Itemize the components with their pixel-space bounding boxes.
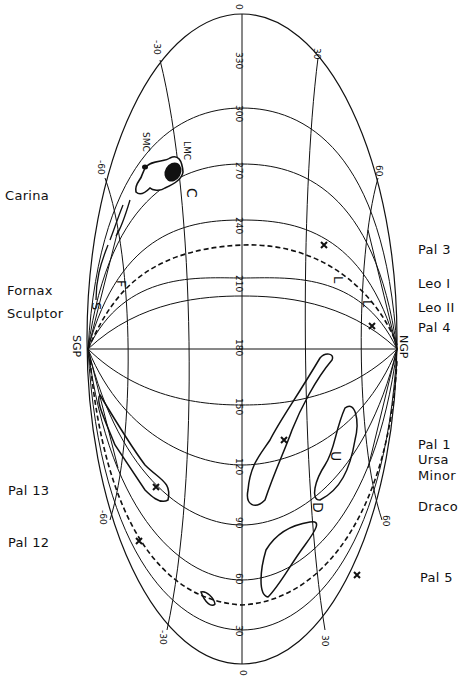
latitude-label-neg60-top: -60	[96, 160, 106, 175]
latitude-label-60-top: 60	[374, 165, 384, 177]
meridian-label-60: 60	[234, 573, 244, 585]
latitude-label-neg30-bottom: -30	[158, 630, 168, 645]
marker-pal4	[369, 323, 375, 329]
label-carina: Carina	[5, 188, 49, 203]
latitude-label-30-bottom: 30	[320, 635, 330, 647]
meridian-label-300: 300	[234, 105, 244, 122]
object-letter-leo1: L	[331, 276, 346, 284]
latitude-label-neg60-bottom: -60	[98, 510, 108, 525]
object-letter-ursa-minor: U	[328, 451, 344, 461]
stream-contour-5	[201, 592, 215, 606]
smc-label: SMC	[141, 132, 151, 152]
label-fornax: Fornax	[7, 283, 53, 298]
marker-pal5	[354, 572, 360, 578]
object-letter-sculptor: S	[89, 302, 104, 310]
label-leo2: Leo II	[418, 300, 455, 315]
label-sculptor: Sculptor	[7, 306, 63, 321]
meridian-label-150: 150	[234, 398, 244, 415]
latitude-label-30-top: 30	[312, 48, 322, 60]
label-leo1: Leo I	[418, 276, 450, 291]
label-ursa: Ursa	[418, 452, 449, 467]
meridian-label-270: 270	[234, 162, 244, 179]
latitude-curve-pos30	[305, 58, 325, 630]
label-draco: Draco	[418, 499, 458, 514]
meridian-label-240: 240	[234, 217, 244, 234]
label-pal3: Pal 3	[418, 242, 451, 257]
meridian-label-90: 90	[234, 517, 244, 529]
meridian-label-180: 180	[234, 339, 244, 356]
meridian-label-0-top: 0	[234, 4, 244, 10]
latitude-label-60-bottom: 60	[381, 515, 391, 527]
aitoff-sky-map: 0 330 300 270 240 210 180 150 120 90 60 …	[0, 0, 459, 686]
magellanic-clouds	[96, 157, 185, 300]
label-pal13: Pal 13	[8, 483, 49, 498]
label-pal1: Pal 1	[418, 437, 451, 452]
latitude-label-neg30-top: -30	[152, 40, 162, 55]
stream-contour-1	[247, 354, 332, 505]
meridian-label-120: 120	[234, 458, 244, 475]
pole-label-sgp: SGP	[70, 335, 83, 358]
label-pal5: Pal 5	[420, 570, 453, 585]
pole-ray-sgp-2	[88, 349, 118, 468]
label-pal12: Pal 12	[8, 535, 49, 550]
label-minor: Minor	[418, 468, 456, 483]
marker-pal1	[281, 437, 287, 443]
meridian-label-0-bottom: 0	[238, 670, 248, 676]
pole-ray-ngp-2	[368, 349, 397, 468]
object-letter-draco: D	[310, 502, 326, 513]
pole-label-ngp: NGP	[397, 335, 410, 359]
cluster-markers	[136, 242, 375, 578]
object-letter-leo2: L	[360, 300, 375, 308]
meridian-labels: 0 330 300 270 240 210 180 150 120 90 60 …	[70, 4, 410, 676]
object-letter-carina: C	[184, 188, 200, 198]
meridian-label-330: 330	[234, 52, 244, 69]
object-letter-fornax: F	[114, 280, 129, 287]
meridian-label-30: 30	[234, 625, 244, 637]
lmc-label: LMC	[182, 141, 192, 160]
smc-core	[142, 165, 148, 170]
label-pal4: Pal 4	[418, 320, 451, 335]
marker-pal3	[321, 242, 327, 248]
meridian-label-210: 210	[234, 275, 244, 292]
stream-contour-3	[261, 522, 317, 597]
orbital-plane-dashed-lower	[90, 360, 397, 605]
